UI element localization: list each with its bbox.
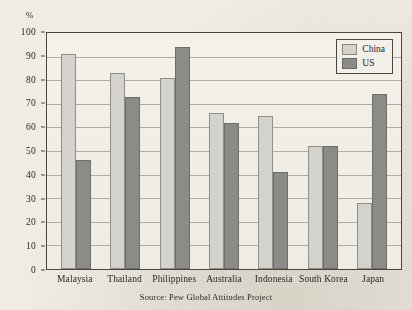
y-axis-tick-mark <box>41 55 45 56</box>
bar-indonesia-us <box>273 172 288 269</box>
legend-item-us: US <box>342 58 385 69</box>
y-axis-tick-label: 40 <box>0 170 36 180</box>
y-axis-tick-label: 60 <box>0 122 36 132</box>
bar-group <box>150 33 199 269</box>
chart-source-note: Source: Pew Global Attitudes Project <box>0 292 412 302</box>
bar-chart-figure: % 0102030405060708090100 China US Malays… <box>0 0 412 310</box>
y-axis-tick-mark <box>41 198 45 199</box>
y-axis-tick-label: 90 <box>0 51 36 61</box>
bar-australia-us <box>224 123 239 269</box>
bar-philippines-china <box>160 78 175 269</box>
y-axis-tick-mark <box>41 270 45 271</box>
y-axis-tick-mark <box>41 151 45 152</box>
bar-group <box>51 33 100 269</box>
x-axis-label: Malaysia <box>50 274 100 284</box>
bar-thailand-china <box>110 73 125 269</box>
y-axis-tick-mark <box>41 103 45 104</box>
bar-group <box>100 33 149 269</box>
x-axis-labels: MalaysiaThailandPhilippinesAustraliaIndo… <box>46 274 402 284</box>
y-axis-tick-label: 70 <box>0 98 36 108</box>
y-axis-tick-label: 50 <box>0 146 36 156</box>
chart-legend: China US <box>336 39 393 74</box>
bar-malaysia-us <box>76 160 91 269</box>
x-axis-label: Japan <box>348 274 398 284</box>
x-axis-label: Australia <box>199 274 249 284</box>
bar-group <box>199 33 248 269</box>
x-axis-label: South Korea <box>299 274 349 284</box>
bar-philippines-us <box>175 47 190 269</box>
x-axis-label: Thailand <box>100 274 150 284</box>
bar-japan-china <box>357 203 372 269</box>
y-axis-tick-label: 0 <box>0 265 36 275</box>
bar-south-korea-china <box>308 146 323 269</box>
bar-japan-us <box>372 94 387 269</box>
bar-indonesia-china <box>258 116 273 269</box>
y-axis-tick-label: 20 <box>0 217 36 227</box>
bar-thailand-us <box>125 97 140 269</box>
y-axis-tick-label: 100 <box>0 27 36 37</box>
legend-label-us: US <box>362 59 374 69</box>
legend-label-china: China <box>362 45 385 55</box>
plot-area: China US <box>46 32 402 270</box>
y-axis-tick-label: 80 <box>0 75 36 85</box>
legend-swatch-china <box>342 44 357 55</box>
bar-south-korea-us <box>323 146 338 269</box>
y-axis-tick-mark <box>41 174 45 175</box>
y-axis-tick-mark <box>41 32 45 33</box>
bar-malaysia-china <box>61 54 76 269</box>
x-axis-label: Philippines <box>149 274 199 284</box>
y-axis-tick-label: 30 <box>0 194 36 204</box>
bar-australia-china <box>209 113 224 269</box>
y-axis-tick-mark <box>41 246 45 247</box>
legend-item-china: China <box>342 44 385 55</box>
y-axis-tick-mark <box>41 127 45 128</box>
y-axis-tick-column: 0102030405060708090100 <box>0 0 41 310</box>
legend-swatch-us <box>342 58 357 69</box>
y-axis-tick-label: 10 <box>0 241 36 251</box>
bar-group <box>249 33 298 269</box>
y-axis-tick-mark <box>41 79 45 80</box>
y-axis-tick-mark <box>41 222 45 223</box>
x-axis-label: Indonesia <box>249 274 299 284</box>
